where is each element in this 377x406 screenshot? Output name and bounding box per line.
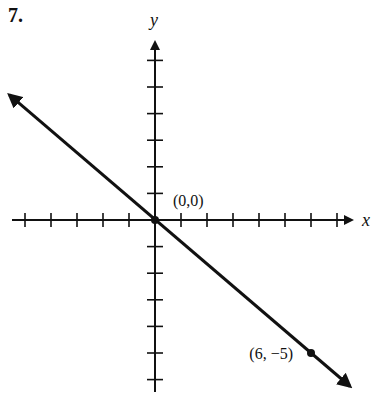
point-label: (6, −5) — [249, 345, 293, 363]
line-series — [9, 95, 350, 386]
point-label: (0,0) — [173, 192, 204, 210]
y-axis-label: y — [148, 10, 158, 30]
point-marker — [151, 216, 159, 224]
x-axis — [12, 213, 352, 227]
graph-line — [9, 95, 350, 386]
point-marker — [307, 349, 315, 357]
coordinate-plane: (0,0)(6, −5) x y — [0, 0, 377, 406]
x-axis-label: x — [361, 210, 370, 230]
